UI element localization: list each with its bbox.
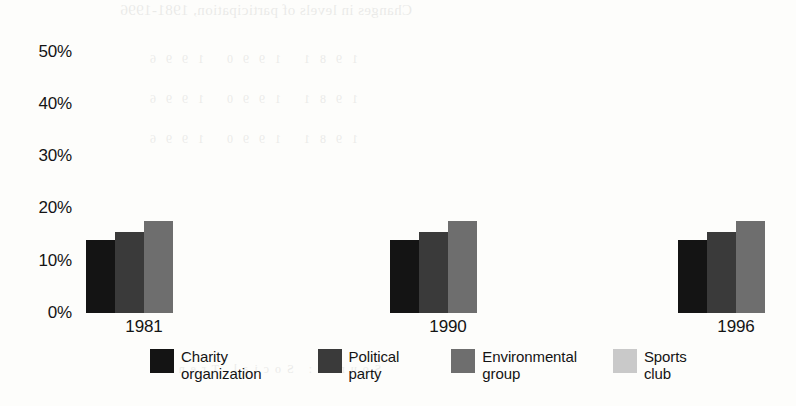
y-axis-tick-label: 40% [6,95,72,112]
legend-item-label: Environmentalgroup [482,348,577,382]
legend-color-swatch [613,349,637,373]
legend-label-line1: Sports [644,348,687,365]
bar-group-1981: 1981 [86,0,202,313]
bar-group-1996: 1996 [678,0,794,313]
bar-1996-environmental-group [736,221,765,313]
bar-chart: 50% 40% 30% 20% 10% 0% 1981 1990 1996 Ch… [0,0,796,406]
bar-group-bars [390,0,506,313]
legend-color-swatch [318,349,342,373]
chart-legend: Charityorganization Politicalparty Envir… [150,348,796,398]
legend-item-label: Charityorganization [181,348,262,382]
x-axis-group-label: 1990 [390,318,506,336]
legend-label-line2: organization [181,365,262,382]
x-axis-group-label: 1981 [86,318,202,336]
bar-group-bars [678,0,794,313]
legend-label-line2: group [482,365,520,382]
y-axis: 50% 40% 30% 20% 10% 0% [0,0,72,340]
y-axis-tick-label: 20% [6,199,72,216]
y-axis-tick-label: 30% [6,147,72,164]
legend-label-line2: party [349,365,382,382]
legend-color-swatch [451,349,475,373]
legend-label-line1: Environmental [482,348,577,365]
y-axis-tick-label: 0% [6,304,72,321]
bar-1981-political-party [115,232,144,313]
plot-area: 1981 1990 1996 [78,0,796,313]
bar-1990-environmental-group [448,221,477,313]
legend-label-line2: club [644,365,671,382]
y-axis-tick-label: 50% [6,43,72,60]
legend-label-line1: Charity [181,348,228,365]
legend-color-swatch [150,349,174,373]
bar-1996-political-party [707,232,736,313]
bar-group-1990: 1990 [390,0,506,313]
legend-item-charity-organization: Charityorganization [150,348,262,382]
bar-1990-political-party [419,232,448,313]
legend-item-environmental-group: Environmentalgroup [451,348,577,382]
legend-item-label: Sportsclub [644,348,687,382]
bar-1996-charity-organization [678,240,707,313]
x-axis-group-label: 1996 [678,318,794,336]
legend-item-label: Politicalparty [349,348,400,382]
bar-1990-charity-organization [390,240,419,313]
bar-1981-environmental-group [144,221,173,313]
bar-group-bars [86,0,202,313]
legend-item-political-party: Politicalparty [318,348,400,382]
legend-label-line1: Political [349,348,400,365]
y-axis-tick-label: 10% [6,252,72,269]
bar-1981-charity-organization [86,240,115,313]
legend-item-sports-club: Sportsclub [613,348,687,382]
